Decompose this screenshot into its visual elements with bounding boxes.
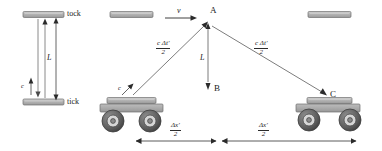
moving-vertical-arrow-bottom (206, 83, 211, 90)
diagram-canvas (0, 0, 382, 151)
rest-length-arrow-top (54, 18, 59, 24)
top-mirror-bar (23, 12, 64, 18)
rest-frame-clock (23, 12, 64, 106)
cart-right-wheel-front (298, 109, 320, 131)
displacement-left-fraction: Δx′ 2 (170, 122, 181, 139)
moving-top-mirror-bar (110, 12, 153, 18)
light-path-down-line (212, 26, 322, 92)
displacement-left-numerator: Δx′ (170, 122, 181, 129)
light-ray-up-arrowhead (42, 19, 47, 25)
light-path-down-arrowhead (320, 88, 327, 95)
velocity-arrow-head (191, 15, 198, 20)
displacement-right-denominator: 2 (258, 131, 269, 138)
displacement-right-fraction: Δx′ 2 (258, 122, 269, 139)
cart-left (100, 84, 163, 133)
displacement-right-numerator: Δx′ (258, 122, 269, 129)
bottom-mirror-bar (23, 99, 64, 105)
point-c-label: C (330, 90, 336, 99)
rest-c-arrow-head (29, 78, 34, 84)
light-path-left-numerator: c Δt′ (156, 40, 170, 47)
moving-right-mirror-group (308, 12, 351, 18)
light-path-triangle (133, 22, 327, 96)
cart-right-wheel-rear (339, 109, 361, 131)
cart-left-wheel-rear (139, 110, 161, 132)
moving-top-mirror-group (110, 12, 197, 21)
cart-right (296, 98, 361, 132)
light-ray-down-arrowhead (35, 92, 40, 98)
rest-length-label: L (47, 54, 51, 62)
light-path-up-line (133, 26, 204, 95)
light-path-left-fraction: c Δt′ 2 (156, 40, 170, 57)
velocity-label: v (177, 7, 181, 15)
moving-light-speed-label: c (118, 85, 121, 92)
light-path-left-denominator: 2 (156, 49, 170, 56)
moving-right-mirror-bar (308, 12, 351, 18)
light-clock-diagram: tock tick L c v A B C L c c Δt′ 2 c Δt′ … (0, 0, 382, 151)
rest-light-speed-label: c (21, 83, 24, 90)
light-path-right-numerator: c Δt′ (254, 40, 268, 47)
point-b-label: B (214, 84, 220, 93)
displacement-left-denominator: 2 (170, 131, 181, 138)
cart-left-mirror-bar (107, 98, 156, 104)
tock-label: tock (67, 10, 81, 18)
moving-c-arrow-line (122, 87, 130, 95)
point-a-label: A (210, 6, 217, 15)
moving-vertical-length-label: L (200, 54, 204, 62)
tick-label: tick (67, 98, 79, 106)
light-path-right-denominator: 2 (254, 49, 268, 56)
light-path-right-fraction: c Δt′ 2 (254, 40, 268, 57)
cart-left-wheel-front (102, 110, 124, 132)
